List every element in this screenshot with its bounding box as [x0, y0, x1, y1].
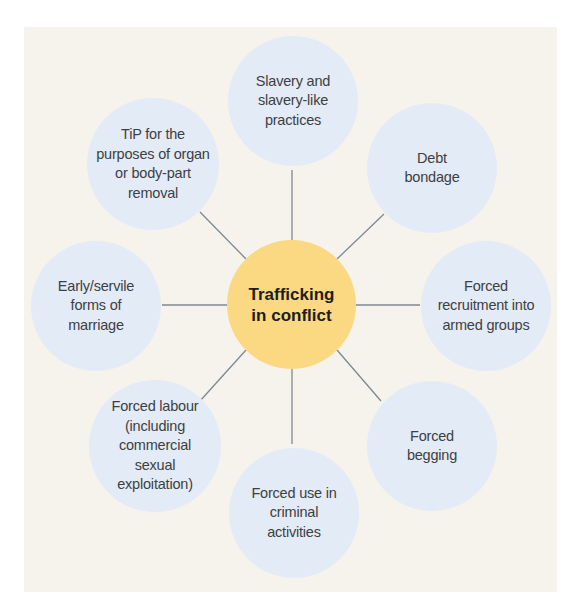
node-forced-criminal: Forced use in criminal activities	[229, 448, 359, 578]
node-slavery: Slavery and slavery-like practices	[228, 36, 358, 166]
node-label: Debt bondage	[404, 149, 459, 188]
node-forced-recruitment: Forced recruitment into armed groups	[421, 241, 551, 371]
node-label: Slavery and slavery-like practices	[256, 72, 330, 131]
node-label: Forced use in criminal activities	[251, 484, 336, 543]
connector-forced-begging	[337, 350, 381, 401]
connector-organ-removal	[200, 212, 246, 259]
node-forced-begging: Forced begging	[367, 381, 497, 511]
center-node-trafficking: Trafficking in conflict	[227, 240, 356, 369]
node-debt-bondage: Debt bondage	[367, 103, 497, 233]
node-label: Forced labour (including commercial sexu…	[112, 397, 199, 495]
connector-debt-bondage	[337, 214, 384, 259]
node-label: Forced recruitment into armed groups	[438, 277, 535, 336]
node-forced-labour: Forced labour (including commercial sexu…	[89, 380, 221, 512]
node-label: TiP for the purposes of organ or body-pa…	[96, 125, 210, 203]
node-organ-removal: TiP for the purposes of organ or body-pa…	[87, 98, 219, 230]
node-label: Early/servile forms of marriage	[58, 277, 134, 336]
node-label: Forced begging	[407, 427, 457, 466]
node-early-marriage: Early/servile forms of marriage	[31, 241, 161, 371]
center-label: Trafficking in conflict	[249, 284, 335, 326]
connector-forced-labour	[200, 350, 246, 401]
